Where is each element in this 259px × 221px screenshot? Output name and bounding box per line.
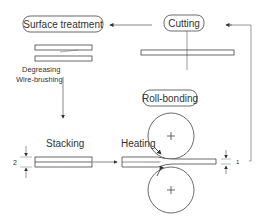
rolled-thickness-value: 1 xyxy=(236,159,240,165)
cutting-label: Cutting xyxy=(168,18,200,29)
stack-thickness-value: 2 xyxy=(13,159,17,166)
surface-treatment-step: Surface treatment xyxy=(23,16,103,32)
return-path xyxy=(230,25,251,161)
heating-label: Heating xyxy=(121,138,155,149)
wire-brushing-label: Wire-brushing xyxy=(16,75,63,84)
sheet-top xyxy=(35,45,92,50)
sheet-to-cut xyxy=(141,50,234,55)
roll-bonding-label: Roll-bonding xyxy=(142,93,198,104)
degreasing-label: Degreasing xyxy=(22,65,60,74)
sheet-bottom xyxy=(35,56,92,61)
stacking-label: Stacking xyxy=(46,138,84,149)
arb-process-diagram: Surface treatment Degreasing Wire-brushi… xyxy=(0,0,259,221)
roll-bonding-step: Roll-bonding xyxy=(142,90,198,106)
stack-thickness-dimension: 2 xyxy=(13,146,32,178)
rolled-thickness-dimension: 1 xyxy=(221,150,240,174)
surface-treatment-label: Surface treatment xyxy=(23,19,103,30)
cutting-step: Cutting xyxy=(164,15,204,31)
